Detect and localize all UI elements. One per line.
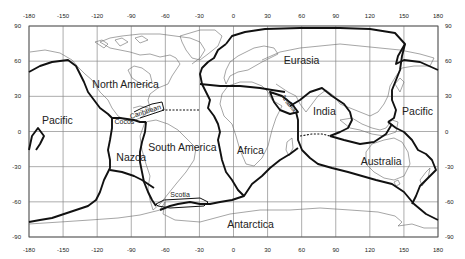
y-tick-label: 0 [18,129,22,135]
plate-label-south-america: South America [148,141,216,153]
x-tick-label: -150 [57,13,70,19]
plate-label-scotia: Scotia [170,191,190,198]
x-tick-label: 0 [232,13,236,19]
y-tick-label: 30 [14,93,21,99]
x-tick-label: -180 [23,13,36,19]
x-axis-top-ticks: -180-150-120-90-60-300306090120150180 [23,13,444,19]
plate-label-pacific: Pacific [402,105,433,117]
x-tick-label: 30 [264,13,271,19]
plate-label-antarctica: Antarctica [227,218,274,230]
plate-label-eurasia: Eurasia [284,54,320,66]
plate-label-north-america: North America [92,78,159,90]
x-tick-label: -120 [91,13,104,19]
y-tick-label: -30 [12,164,21,170]
x-tick-label: 180 [433,247,444,253]
y-tick-label: 60 [445,58,452,64]
tectonic-plates-map: -180-150-120-90-60-300306090120150180 -1… [0,0,465,259]
plate-label-australia: Australia [361,155,402,167]
x-tick-label: 180 [433,13,444,19]
x-tick-label: 0 [232,247,236,253]
x-tick-label: 60 [298,247,305,253]
y-tick-label: 90 [445,23,452,29]
x-tick-label: -90 [127,247,136,253]
x-tick-label: 30 [264,247,271,253]
x-tick-label: -60 [161,13,170,19]
plate-label-pacific: Pacific [42,114,73,126]
plate-label-caribbean: Caribbean [129,103,162,120]
plate-label-africa: Africa [237,144,264,156]
plate-label-nazca: Nazca [116,151,146,163]
y-tick-label: -90 [12,234,21,240]
y-tick-label: 60 [14,58,21,64]
x-tick-label: 120 [365,13,376,19]
x-tick-label: -150 [57,247,70,253]
y-tick-label: -90 [445,234,454,240]
y-tick-label: -60 [445,199,454,205]
y-tick-label: -30 [445,164,454,170]
y-axis-right-ticks: 9060300-30-60-90 [445,23,454,240]
x-tick-label: -120 [91,247,104,253]
y-tick-label: -60 [12,199,21,205]
x-tick-label: -60 [161,247,170,253]
x-tick-label: 90 [332,13,339,19]
x-tick-label: -180 [23,247,36,253]
x-tick-label: 120 [365,247,376,253]
y-tick-label: 0 [445,129,449,135]
x-tick-label: 150 [399,13,410,19]
x-tick-label: 60 [298,13,305,19]
x-tick-label: -90 [127,13,136,19]
y-tick-label: 30 [445,93,452,99]
x-tick-label: -30 [195,13,204,19]
x-tick-label: 150 [399,247,410,253]
plate-label-india: India [313,105,336,117]
x-tick-label: -30 [195,247,204,253]
y-tick-label: 90 [14,23,21,29]
x-tick-label: 90 [332,247,339,253]
x-axis-bottom-ticks: -180-150-120-90-60-300306090120150180 [23,247,444,253]
y-axis-left-ticks: 9060300-30-60-90 [12,23,21,240]
